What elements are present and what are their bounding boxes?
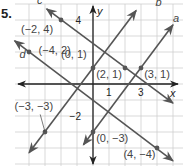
y-tick-label: −2 <box>70 111 82 122</box>
point-label: (−3, −3) <box>15 100 54 112</box>
point-label: (−2, 4) <box>21 23 53 35</box>
point-label: (0, 1) <box>61 48 87 60</box>
point <box>91 66 96 71</box>
leader-line <box>40 114 45 132</box>
line-label-d: d <box>19 48 26 60</box>
x-tick-label: 1 <box>106 87 112 98</box>
point-label: (0, −3) <box>96 132 128 144</box>
point <box>123 66 128 71</box>
x-tick-label: 3 <box>138 87 144 98</box>
coordinate-plane: xy134−2abcd(−2, 4)(−4, 2)(0, 1)(2, 1)(3,… <box>0 0 184 168</box>
line-label-c: c <box>37 0 43 6</box>
point <box>59 18 64 23</box>
line-label-a: a <box>173 12 179 24</box>
y-tick-label: 4 <box>75 15 81 26</box>
point <box>27 50 32 55</box>
point-label: (2, 1) <box>96 68 122 80</box>
point <box>139 66 144 71</box>
point-label: (3, 1) <box>144 68 170 80</box>
x-axis-label: x <box>169 87 176 99</box>
point <box>91 130 96 135</box>
line-label-b: b <box>155 0 161 8</box>
y-axis-label: y <box>96 5 104 17</box>
point-label: (4, −4) <box>123 148 155 160</box>
